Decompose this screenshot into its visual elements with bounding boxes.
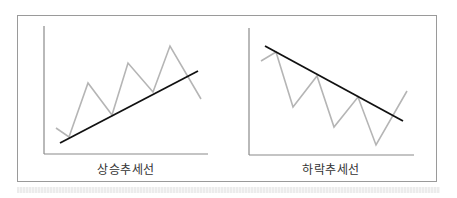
uptrend-price-path	[56, 46, 201, 137]
downtrend-chart	[249, 28, 414, 155]
uptrend-chart	[44, 26, 208, 154]
uptrend-label: 상승추세선	[66, 160, 186, 177]
downtrend-label: 하락추세선	[271, 160, 391, 177]
bottom-divider-band	[17, 187, 440, 193]
downtrend-price-path	[261, 52, 407, 145]
uptrend-trend-line	[60, 71, 198, 143]
